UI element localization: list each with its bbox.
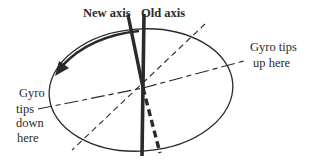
gyroscope-precession-diagram: New axis Old axis Gyro tips up here Gyro… xyxy=(0,0,310,166)
new-axis-dashed-extension xyxy=(143,88,160,153)
tilt-line-left-segment xyxy=(38,88,143,109)
down-label-line-4: here xyxy=(17,131,39,145)
diagram-canvas: New axis Old axis Gyro tips up here Gyro… xyxy=(0,0,310,166)
down-label-line-3: down xyxy=(16,116,45,130)
up-label-line-2: up here xyxy=(253,56,291,70)
old-axis-label: Old axis xyxy=(141,6,185,20)
arrow-head-icon xyxy=(55,61,69,76)
tilt-line-right-segment xyxy=(143,61,244,88)
up-label-line-1: Gyro tips xyxy=(250,40,297,54)
new-axis-line xyxy=(128,15,143,88)
new-axis-label: New axis xyxy=(83,6,131,20)
down-label-line-2: tips xyxy=(16,102,34,116)
down-label-line-1: Gyro xyxy=(19,86,45,100)
